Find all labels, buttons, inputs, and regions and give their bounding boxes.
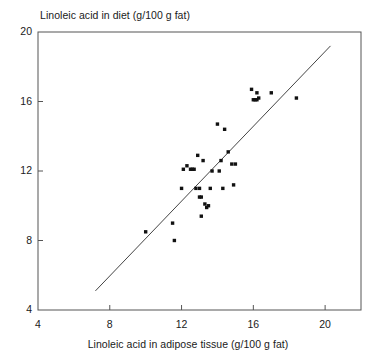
data-point xyxy=(234,162,237,165)
data-point xyxy=(210,169,213,172)
data-point xyxy=(200,214,203,217)
data-point xyxy=(201,159,204,162)
x-tick-label: 4 xyxy=(23,318,53,330)
data-point xyxy=(196,154,199,157)
axis-frame xyxy=(38,32,361,310)
data-point xyxy=(295,96,298,99)
data-point-markers xyxy=(144,88,298,243)
data-point xyxy=(144,230,147,233)
y-tick-label: 20 xyxy=(6,25,32,37)
data-point xyxy=(200,195,203,198)
y-tick-label: 8 xyxy=(6,234,32,246)
data-point xyxy=(257,96,260,99)
data-point xyxy=(216,122,219,125)
data-point xyxy=(180,187,183,190)
data-point xyxy=(207,204,210,207)
data-point xyxy=(232,183,235,186)
tick-marks xyxy=(38,102,325,311)
y-tick-label: 12 xyxy=(6,164,32,176)
x-tick-label: 16 xyxy=(238,318,268,330)
x-axis-label: Linoleic acid in adipose tissue (g/100 g… xyxy=(0,338,376,350)
scatter-plot-figure: Linoleic acid in diet (g/100 g fat) 4812… xyxy=(0,0,376,361)
plot-canvas xyxy=(0,0,376,361)
data-point xyxy=(223,128,226,131)
regression-line xyxy=(95,46,330,291)
data-point xyxy=(255,91,258,94)
x-tick-label: 12 xyxy=(167,318,197,330)
data-point xyxy=(230,162,233,165)
data-point xyxy=(270,91,273,94)
x-tick-label: 20 xyxy=(310,318,340,330)
data-point xyxy=(198,187,201,190)
data-point xyxy=(185,164,188,167)
data-point xyxy=(194,187,197,190)
data-point xyxy=(173,239,176,242)
data-point xyxy=(227,150,230,153)
data-point xyxy=(209,187,212,190)
y-tick-label: 16 xyxy=(6,95,32,107)
x-tick-label: 8 xyxy=(95,318,125,330)
data-point xyxy=(192,168,195,171)
data-point xyxy=(218,169,221,172)
data-point xyxy=(250,88,253,91)
data-point xyxy=(182,168,185,171)
y-tick-label: 4 xyxy=(6,303,32,315)
data-point xyxy=(171,221,174,224)
data-point xyxy=(221,187,224,190)
data-point xyxy=(219,159,222,162)
data-point xyxy=(203,202,206,205)
